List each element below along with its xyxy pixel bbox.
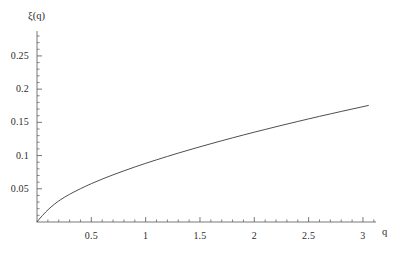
- x-axis-tick-label: 0.5: [74, 231, 108, 241]
- x-axis: [37, 217, 376, 222]
- y-axis-tick-label: 0.1: [0, 151, 29, 161]
- y-axis: [37, 31, 42, 222]
- y-axis-tick-label: 0.2: [0, 84, 29, 94]
- x-axis-tick-label: 2: [237, 231, 271, 241]
- x-axis-tick-label: 3: [346, 231, 380, 241]
- data-series-curve: [37, 105, 368, 222]
- x-axis-tick-label: 2.5: [292, 231, 326, 241]
- x-axis-major-ticks: [91, 217, 363, 222]
- y-axis-tick-label: 0.05: [0, 184, 29, 194]
- x-axis-tick-label: 1.5: [183, 231, 217, 241]
- chart-figure: 0.050.10.150.20.25 0.511.522.53 ξ(q) q: [0, 0, 394, 256]
- x-axis-title: q: [382, 226, 387, 237]
- y-axis-tick-label: 0.15: [0, 117, 29, 127]
- x-axis-tick-label: 1: [129, 231, 163, 241]
- y-axis-title: ξ(q): [28, 10, 45, 21]
- plot-canvas: [0, 0, 394, 256]
- y-axis-tick-label: 0.25: [0, 51, 29, 61]
